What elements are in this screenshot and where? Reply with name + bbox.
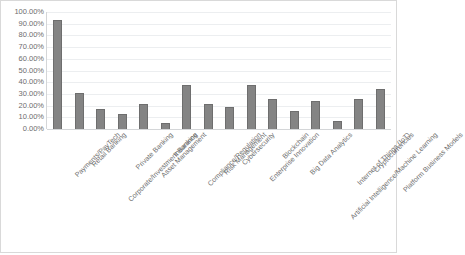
bar bbox=[161, 123, 170, 129]
y-axis-tick-label: 80.00% bbox=[1, 31, 44, 39]
x-axis-tick-label: Risk Management bbox=[223, 131, 269, 177]
x-axis: Payments/PayTechRetail BankingCorporate/… bbox=[47, 131, 400, 255]
y-axis-tick-label: 50.00% bbox=[1, 67, 44, 75]
bar-chart-figure: 100.00%90.00%80.00%70.00%60.00%50.00%40.… bbox=[0, 0, 397, 253]
y-axis-tick-label: 100.00% bbox=[1, 8, 44, 16]
bar bbox=[75, 93, 84, 129]
bar bbox=[268, 99, 277, 129]
bar bbox=[376, 89, 385, 129]
x-axis-tick-label: Cryptocurrencies bbox=[372, 131, 415, 174]
bar bbox=[204, 104, 213, 129]
bar bbox=[225, 107, 234, 129]
bar bbox=[247, 85, 256, 129]
gridline bbox=[47, 129, 391, 130]
bar bbox=[333, 121, 342, 129]
y-axis-tick-label: 10.00% bbox=[1, 113, 44, 121]
bar bbox=[139, 104, 148, 129]
y-axis-tick-label: 90.00% bbox=[1, 20, 44, 28]
bar bbox=[53, 20, 62, 129]
y-axis-tick-label: 60.00% bbox=[1, 55, 44, 63]
y-axis-tick-label: 30.00% bbox=[1, 90, 44, 98]
bar bbox=[182, 85, 191, 129]
y-axis-tick-label: 40.00% bbox=[1, 78, 44, 86]
y-axis-tick-label: 0.00% bbox=[1, 125, 44, 133]
bar bbox=[96, 109, 105, 129]
y-axis: 100.00%90.00%80.00%70.00%60.00%50.00%40.… bbox=[1, 1, 44, 140]
y-axis-tick-label: 20.00% bbox=[1, 102, 44, 110]
bar bbox=[118, 114, 127, 129]
bar bbox=[354, 99, 363, 129]
bar bbox=[290, 111, 299, 129]
y-axis-tick-label: 70.00% bbox=[1, 43, 44, 51]
bar bbox=[311, 101, 320, 129]
bar-series bbox=[47, 12, 391, 129]
